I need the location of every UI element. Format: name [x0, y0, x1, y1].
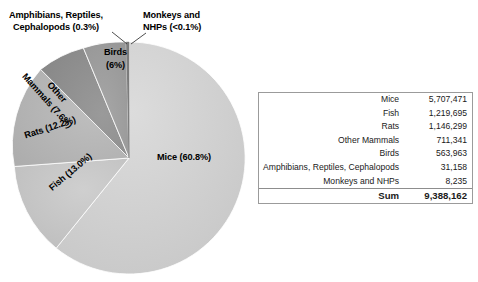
table-row: Monkeys and NHPs8,235 — [259, 175, 472, 189]
table-cell-value: 1,146,299 — [404, 120, 472, 134]
pie-label-mice: Mice (60.8%) — [157, 152, 211, 164]
table-row: Other Mammals711,341 — [259, 134, 472, 148]
pie-label-monkeys: Monkeys and NHPs (<0.1%) — [143, 10, 201, 33]
data-table: Mice5,707,471Fish1,219,695Rats1,146,299O… — [258, 92, 473, 204]
pie-label-amphibians-line2: Cephalopods (0.3%) — [9, 22, 103, 34]
table-cell-label: Rats — [259, 120, 404, 134]
table-sum-label: Sum — [259, 189, 404, 203]
table-sum-row: Sum9,388,162 — [259, 189, 472, 203]
pie-label-birds-line1: Birds — [104, 46, 127, 59]
pie-label-monkeys-line2: NHPs (<0.1%) — [143, 22, 201, 34]
table-sum-value: 9,388,162 — [404, 189, 472, 203]
table-row: Rats1,146,299 — [259, 120, 472, 134]
data-table-body: Mice5,707,471Fish1,219,695Rats1,146,299O… — [259, 93, 472, 203]
pie-label-amphibians: Amphibians, Reptiles, Cephalopods (0.3%) — [9, 10, 103, 33]
table-cell-label: Birds — [259, 147, 404, 161]
table-row: Amphibians, Reptiles, Cephalopods31,158 — [259, 161, 472, 175]
table-row: Fish1,219,695 — [259, 107, 472, 121]
pie-label-birds-line2: (6%) — [104, 59, 127, 72]
table-cell-label: Monkeys and NHPs — [259, 175, 404, 189]
table-cell-value: 31,158 — [404, 161, 472, 175]
table-cell-value: 1,219,695 — [404, 107, 472, 121]
pie-chart-figure: Amphibians, Reptiles, Cephalopods (0.3%)… — [0, 0, 478, 282]
pie-label-birds: Birds (6%) — [104, 46, 127, 72]
table-row: Birds563,963 — [259, 147, 472, 161]
table-cell-label: Mice — [259, 93, 404, 107]
pie-label-monkeys-line1: Monkeys and — [143, 10, 201, 22]
table-cell-value: 5,707,471 — [404, 93, 472, 107]
pie-label-amphibians-line1: Amphibians, Reptiles, — [9, 10, 103, 22]
table-cell-label: Other Mammals — [259, 134, 404, 148]
table-cell-value: 8,235 — [404, 175, 472, 189]
table-cell-label: Amphibians, Reptiles, Cephalopods — [259, 161, 404, 175]
table-cell-value: 563,963 — [404, 147, 472, 161]
table-cell-value: 711,341 — [404, 134, 472, 148]
table-cell-label: Fish — [259, 107, 404, 121]
table-row: Mice5,707,471 — [259, 93, 472, 107]
